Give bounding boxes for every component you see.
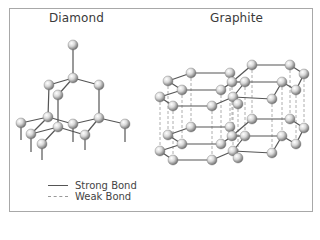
carbon-atom	[155, 92, 165, 102]
carbon-atom	[16, 118, 26, 128]
carbon-atom	[177, 85, 187, 95]
strong-bond	[233, 151, 272, 153]
carbon-atom	[120, 119, 130, 129]
carbon-atom	[291, 139, 301, 149]
carbon-atom	[227, 77, 237, 87]
carbon-atom	[247, 60, 257, 70]
carbon-atom	[53, 122, 63, 132]
strong-bond	[233, 97, 272, 99]
carbon-atom	[225, 122, 235, 132]
carbon-atom	[186, 68, 196, 78]
carbon-atom	[168, 101, 178, 111]
carbon-atom	[37, 139, 47, 149]
carbon-atom	[277, 131, 287, 141]
legend-weak-bond: Weak Bond	[48, 191, 137, 202]
carbon-atom	[277, 77, 287, 87]
carbon-atom	[168, 155, 178, 165]
carbon-atom	[186, 122, 196, 132]
carbon-atom	[68, 73, 78, 83]
carbon-atom	[240, 77, 250, 87]
carbon-atom	[291, 85, 301, 95]
carbon-atom	[177, 139, 187, 149]
carbon-atom	[216, 85, 226, 95]
carbon-atom	[80, 130, 90, 140]
carbon-atom	[26, 129, 36, 139]
legend-strong-bond: Strong Bond	[48, 180, 137, 191]
graphite-structure	[155, 60, 309, 165]
carbon-atom	[299, 123, 309, 133]
carbon-atom	[68, 119, 78, 129]
legend-strong-label: Strong Bond	[75, 180, 137, 191]
carbon-atom	[43, 112, 53, 122]
carbon-atom	[216, 139, 226, 149]
carbon-atom	[163, 130, 173, 140]
carbon-atom	[285, 114, 295, 124]
solid-line-icon	[48, 185, 68, 186]
legend: Strong Bond Weak Bond	[48, 180, 137, 202]
legend-weak-label: Weak Bond	[75, 191, 131, 202]
dashed-line-icon	[48, 196, 68, 197]
carbon-atom	[155, 146, 165, 156]
carbon-atom	[267, 148, 277, 158]
carbon-atom	[44, 80, 54, 90]
carbon-atom	[267, 94, 277, 104]
diamond-structure	[16, 40, 130, 160]
carbon-atom	[225, 68, 235, 78]
carbon-atom	[240, 131, 250, 141]
carbon-atom	[247, 114, 257, 124]
carbon-atom	[207, 101, 217, 111]
carbon-atom	[68, 40, 78, 50]
carbon-atom	[299, 69, 309, 79]
carbon-atom	[94, 80, 104, 90]
carbon-atom	[227, 131, 237, 141]
carbon-atom	[94, 113, 104, 123]
carbon-atom	[233, 153, 243, 163]
carbon-atom	[53, 90, 63, 100]
carbon-atom	[233, 99, 243, 109]
carbon-atom	[163, 76, 173, 86]
carbon-atom	[285, 60, 295, 70]
carbon-atom	[207, 155, 217, 165]
